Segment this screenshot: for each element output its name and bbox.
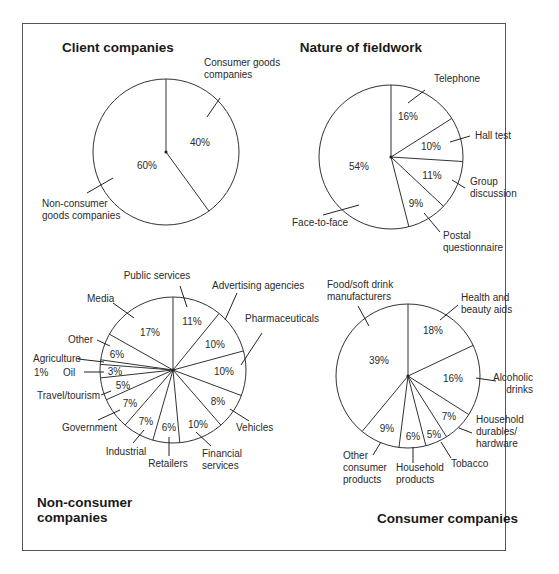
pie-chart-client-companies: Client companies40%Consumer goodscompani… [42,40,280,225]
leader-line [241,333,262,365]
slice-label: Householdproducts [396,462,444,485]
chart-title: Consumer companies [377,511,518,526]
slice-label: Groupdiscussion [470,176,517,199]
pie-center-dot [406,374,409,377]
slice-percent: 54% [349,161,369,172]
slice-percent: 1% [34,367,49,378]
slice-percent: 18% [423,325,443,336]
slice-label: Telephone [434,73,481,84]
slice-percent: 17% [140,327,160,338]
slice-percent: 16% [398,111,418,122]
slice-label: Public services [124,270,191,281]
slice-label: Food/soft drinkmanufacturers [327,279,394,302]
slice-label: Face-to-face [292,217,349,228]
slice-label: Industrial [106,446,147,457]
slice-label: Tobacco [451,458,489,469]
slice-percent: 60% [137,160,157,171]
slice-percent: 10% [421,141,441,152]
slice-label: Hall test [475,130,511,141]
slice-label: Travel/tourism [37,390,100,401]
slice-percent: 11% [182,316,201,327]
slice-percent: 40% [190,137,210,148]
slice-percent: 5% [427,429,442,440]
leader-line [441,442,451,458]
slice-label: Oil [63,367,75,378]
slice-percent: 5% [116,380,131,391]
slice-percent: 39% [369,355,389,366]
pie-chart-consumer-companies: Consumer companies18%Health andbeauty ai… [327,279,533,526]
slice-label: Vehicles [236,422,273,433]
slice-percent: 6% [162,422,177,433]
slice-percent: 6% [110,349,125,360]
leader-line [373,442,381,455]
slice-percent: 10% [214,366,234,377]
slice-percent: 11% [422,170,441,181]
chart-title: Nature of fieldwork [300,40,423,55]
leader-line [459,428,472,433]
slice-oil: 3%Oil [63,366,122,378]
leader-line [230,409,249,421]
pie-center-dot [164,150,167,153]
pie-chart-nature-of-fieldwork: Nature of fieldwork16%Telephone10%Hall t… [292,40,517,253]
slice-percent: 8% [211,396,226,407]
slice-label: Postalquestionnaire [443,230,503,253]
slice-label: Otherconsumerproducts [343,450,388,485]
slice-label: Media [87,293,115,304]
slice-percent: 3% [108,366,123,377]
slice-label: Financialservices [202,448,242,471]
slice-label: Other [68,334,94,345]
slice-percent: 9% [409,198,424,209]
leader-line [225,293,237,320]
chart-title: Client companies [62,40,174,55]
slice-percent: 10% [205,339,225,350]
slice-label: Householddurables/hardware [476,414,524,449]
slice-percent: 6% [406,431,421,442]
slice-percent: 7% [442,411,457,422]
pie-center-dot [389,155,392,158]
slice-label: Pharmaceuticals [245,313,319,324]
pie-center-dot [171,368,174,371]
chart-title: Non-consumercompanies [37,495,133,525]
pie-chart-non-consumer-companies: Non-consumercompanies11%Public services1… [33,270,319,525]
slice-label: Consumer goodscompanies [204,57,280,80]
slice-label: Health andbeauty aids [461,292,512,315]
slice-label: Alcoholicdrinks [493,372,533,395]
slice-percent: 16% [443,373,463,384]
slice-percent: 10% [188,419,208,430]
pie-charts-figure: Client companies40%Consumer goodscompani… [0,0,559,574]
slice-label: Government [62,422,117,433]
leader-line [78,359,104,362]
slice-label: Advertising agencies [212,280,304,291]
slice-label: Non-consumergoods companies [42,198,120,221]
slice-percent: 9% [380,423,395,434]
slice-percent: 7% [139,416,154,427]
slice-label: Retailers [148,458,187,469]
slice-label: Agriculture [33,353,81,364]
slice-percent: 7% [123,398,138,409]
slice-postal-questionnaire: 9%Postalquestionnaire [409,198,504,253]
